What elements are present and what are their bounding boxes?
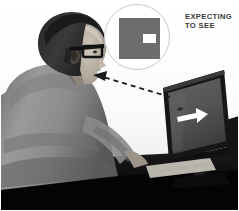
caption-line-2: TO SEE [185, 21, 239, 30]
inset-white-patch [143, 34, 156, 43]
inset-gray-square [119, 18, 160, 59]
caption-line-1: EXPECTING [185, 12, 239, 21]
expectation-caption: EXPECTING TO SEE [185, 12, 239, 31]
expectation-figure: EXPECTING TO SEE [0, 0, 239, 211]
expectation-inset [104, 4, 170, 70]
